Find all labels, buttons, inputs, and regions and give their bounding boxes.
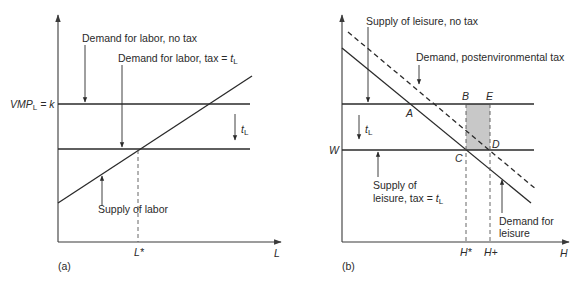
point-c: C: [455, 152, 463, 164]
panel-b: Supply of leisure, no tax Demand, posten…: [329, 15, 569, 272]
panel-b-tag: (b): [342, 260, 355, 272]
x-axis-label-h: H: [560, 247, 568, 259]
x-tick-l-star: L*: [134, 246, 145, 258]
x-axis-label-l: L: [274, 247, 280, 259]
x-tick-h-plus: H+: [484, 246, 498, 258]
point-d: D: [492, 138, 500, 150]
label-tax-shift: tL: [241, 123, 249, 137]
x-tick-h-star: H*: [460, 246, 473, 258]
label-demand-no-tax: Demand for labor, no tax: [82, 32, 198, 44]
panel-a: Demand for labor, no tax Demand for labo…: [10, 15, 281, 272]
label-vmp-k: VMPL = k: [10, 98, 55, 112]
supply-labor-line: [58, 76, 252, 203]
y-tick-w: W: [329, 144, 340, 156]
label-supply-tax-line2: leisure, tax = tL: [373, 192, 444, 206]
label-supply-labor: Supply of labor: [98, 203, 169, 215]
labor-leisure-diagram: Demand for labor, no tax Demand for labo…: [0, 0, 586, 285]
label-demand-tax: Demand for labor, tax = tL: [118, 52, 238, 66]
panel-a-tag: (a): [58, 260, 71, 272]
point-e: E: [486, 90, 494, 102]
label-demand-leisure-line2: leisure: [499, 227, 530, 239]
label-tax-shift: tL: [365, 123, 373, 137]
shaded-region-bedc: [466, 104, 490, 150]
label-supply-leisure-no-tax: Supply of leisure, no tax: [366, 15, 479, 27]
point-b: B: [462, 90, 469, 102]
demand-leisure-line: [342, 48, 531, 203]
label-demand-leisure-line1: Demand for: [499, 215, 554, 227]
point-a: A: [405, 107, 413, 119]
label-supply-tax-line1: Supply of: [373, 179, 417, 191]
label-demand-post-tax: Demand, postenvironmental tax: [416, 51, 565, 63]
